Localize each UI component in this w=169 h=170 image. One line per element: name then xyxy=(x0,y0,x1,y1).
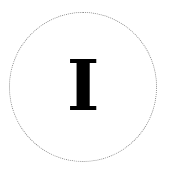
letter-badge: I xyxy=(9,12,157,162)
badge-letter: I xyxy=(67,51,100,121)
